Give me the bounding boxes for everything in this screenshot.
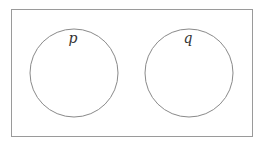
set-p-label: p: [69, 30, 78, 46]
venn-diagram: p q: [0, 0, 262, 145]
universe-rectangle: [12, 10, 253, 137]
set-q-label: q: [184, 30, 193, 46]
